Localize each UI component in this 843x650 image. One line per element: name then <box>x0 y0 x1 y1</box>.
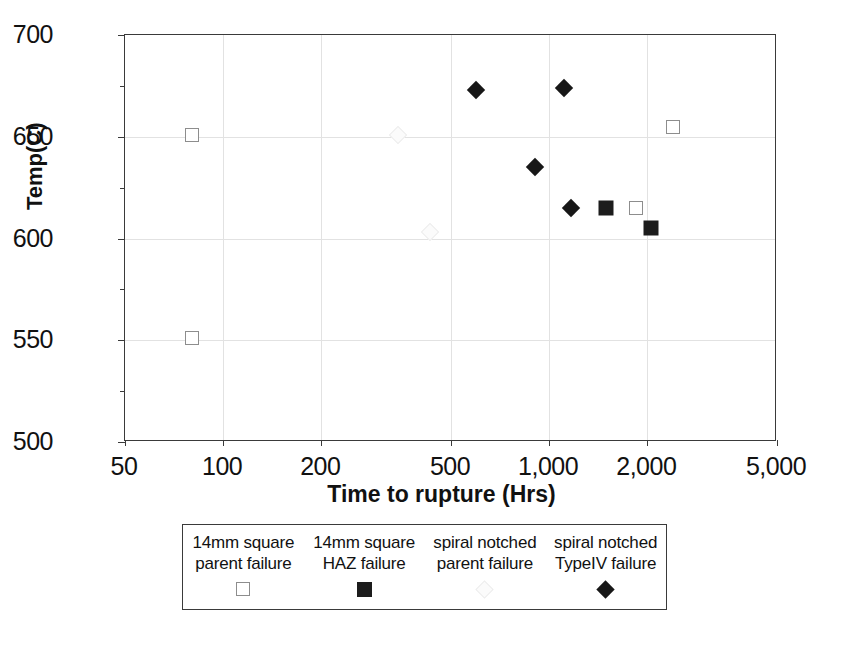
x-axis-tick-label: 5,000 <box>716 452 836 481</box>
data-point-open-square <box>666 120 680 134</box>
y-axis-tick <box>118 340 125 341</box>
data-point-filled-square <box>644 221 659 236</box>
chart-legend: 14mm squareparent failure14mm squareHAZ … <box>182 524 667 610</box>
y-axis-tick-label: 550 <box>0 325 53 354</box>
data-point-filled-diamond <box>555 79 573 97</box>
legend-entry[interactable]: spiral notchedparent failure <box>425 525 546 609</box>
legend-entry[interactable]: spiral notchedTypeIV failure <box>545 525 666 609</box>
x-gridline <box>647 35 648 440</box>
legend-label-line2: parent failure <box>195 553 291 574</box>
y-gridline <box>125 137 775 138</box>
x-gridline <box>223 35 224 440</box>
data-point-open-square <box>629 201 643 215</box>
legend-label-line2: parent failure <box>437 553 533 574</box>
x-axis-tick <box>777 440 778 446</box>
legend-entry[interactable]: 14mm squareHAZ failure <box>304 525 425 609</box>
legend-label-line1: spiral notched <box>554 532 657 553</box>
x-gridline <box>451 35 452 440</box>
legend-label-line1: 14mm square <box>313 532 415 553</box>
scatter-chart-figure: Temp(C) 501002005001,0002,0005,000500550… <box>0 0 843 650</box>
legend-swatch <box>545 580 666 598</box>
y-axis-minor-tick <box>120 391 125 392</box>
y-axis-tick <box>118 35 125 36</box>
y-axis-minor-tick <box>120 86 125 87</box>
x-axis-tick <box>647 440 648 446</box>
y-gridline <box>125 239 775 240</box>
x-axis-tick-label: 200 <box>260 452 380 481</box>
y-axis-tick <box>118 239 125 240</box>
legend-swatch <box>183 580 304 598</box>
legend-label-line1: 14mm square <box>193 532 295 553</box>
plot-area <box>125 35 775 440</box>
data-point-filled-diamond <box>526 158 544 176</box>
x-gridline <box>321 35 322 440</box>
legend-marker-open-diamond <box>476 580 494 598</box>
x-axis-tick <box>549 440 550 446</box>
x-axis-tick <box>223 440 224 446</box>
data-point-filled-diamond <box>466 81 484 99</box>
data-point-open-square <box>185 128 199 142</box>
legend-entry[interactable]: 14mm squareparent failure <box>183 525 304 609</box>
data-point-open-square <box>185 331 199 345</box>
legend-swatch <box>304 580 425 598</box>
y-axis-minor-tick <box>120 289 125 290</box>
legend-label-line1: spiral notched <box>433 532 536 553</box>
data-point-open-diamond <box>389 126 407 144</box>
legend-label-line2: TypeIV failure <box>555 553 656 574</box>
y-axis-tick-label: 500 <box>0 427 53 456</box>
y-gridline <box>125 340 775 341</box>
y-axis-tick-label: 700 <box>0 20 53 49</box>
x-axis-tick <box>451 440 452 446</box>
y-axis-tick <box>118 442 125 443</box>
x-axis-tick <box>321 440 322 446</box>
legend-swatch <box>425 580 546 598</box>
y-axis-tick <box>118 137 125 138</box>
legend-label-line2: HAZ failure <box>323 553 406 574</box>
y-axis-tick-label: 600 <box>0 223 53 252</box>
x-axis-tick <box>125 440 126 446</box>
y-axis-minor-tick <box>120 188 125 189</box>
data-point-filled-diamond <box>562 199 580 217</box>
y-axis-title: Temp(C) <box>22 176 48 210</box>
legend-marker-filled-diamond <box>596 580 614 598</box>
plot-frame <box>124 34 776 441</box>
legend-marker-open-square <box>236 582 250 596</box>
y-axis-tick-label: 650 <box>0 121 53 150</box>
x-gridline <box>549 35 550 440</box>
x-axis-title: Time to rupture (Hrs) <box>0 481 843 508</box>
x-axis-tick-label: 2,000 <box>586 452 706 481</box>
legend-marker-filled-square <box>357 582 372 597</box>
data-point-filled-square <box>598 200 613 215</box>
